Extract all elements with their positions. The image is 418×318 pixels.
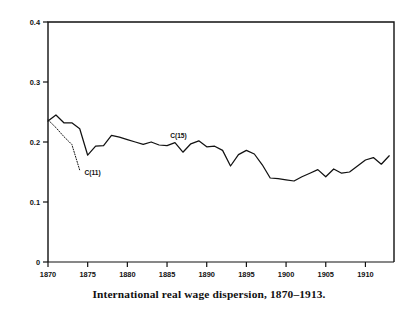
figure-container: 00.10.20.30.4 18701875188018851890189519… bbox=[0, 0, 418, 318]
y-tick-label: 0.3 bbox=[30, 78, 40, 87]
x-tick-label: 1910 bbox=[357, 270, 373, 279]
y-tick-label: 0.4 bbox=[30, 18, 41, 27]
x-tick-label: 1880 bbox=[119, 270, 135, 279]
annotation-layer: C(11)C(15) bbox=[85, 132, 187, 177]
plot-frame bbox=[48, 22, 394, 262]
x-tick-label: 1870 bbox=[40, 270, 56, 279]
x-tick-label: 1905 bbox=[318, 270, 334, 279]
wage-dispersion-chart: 00.10.20.30.4 18701875188018851890189519… bbox=[0, 0, 418, 318]
x-tick-label: 1885 bbox=[159, 270, 175, 279]
x-axis-ticks: 187018751880188518901895190019051910 bbox=[40, 262, 374, 279]
series-line-c11 bbox=[48, 120, 80, 170]
series-label-c15: C(15) bbox=[170, 132, 187, 140]
x-tick-label: 1875 bbox=[79, 270, 95, 279]
x-tick-label: 1900 bbox=[278, 270, 294, 279]
x-tick-label: 1890 bbox=[198, 270, 214, 279]
figure-caption: International real wage dispersion, 1870… bbox=[0, 288, 418, 300]
y-tick-label: 0.2 bbox=[30, 138, 40, 147]
axes-frame bbox=[48, 22, 394, 262]
series-label-c11: C(11) bbox=[85, 169, 101, 177]
y-tick-label: 0.1 bbox=[30, 198, 40, 207]
y-tick-label: 0 bbox=[36, 258, 40, 267]
x-tick-label: 1895 bbox=[238, 270, 254, 279]
y-axis-ticks: 00.10.20.30.4 bbox=[30, 18, 48, 267]
